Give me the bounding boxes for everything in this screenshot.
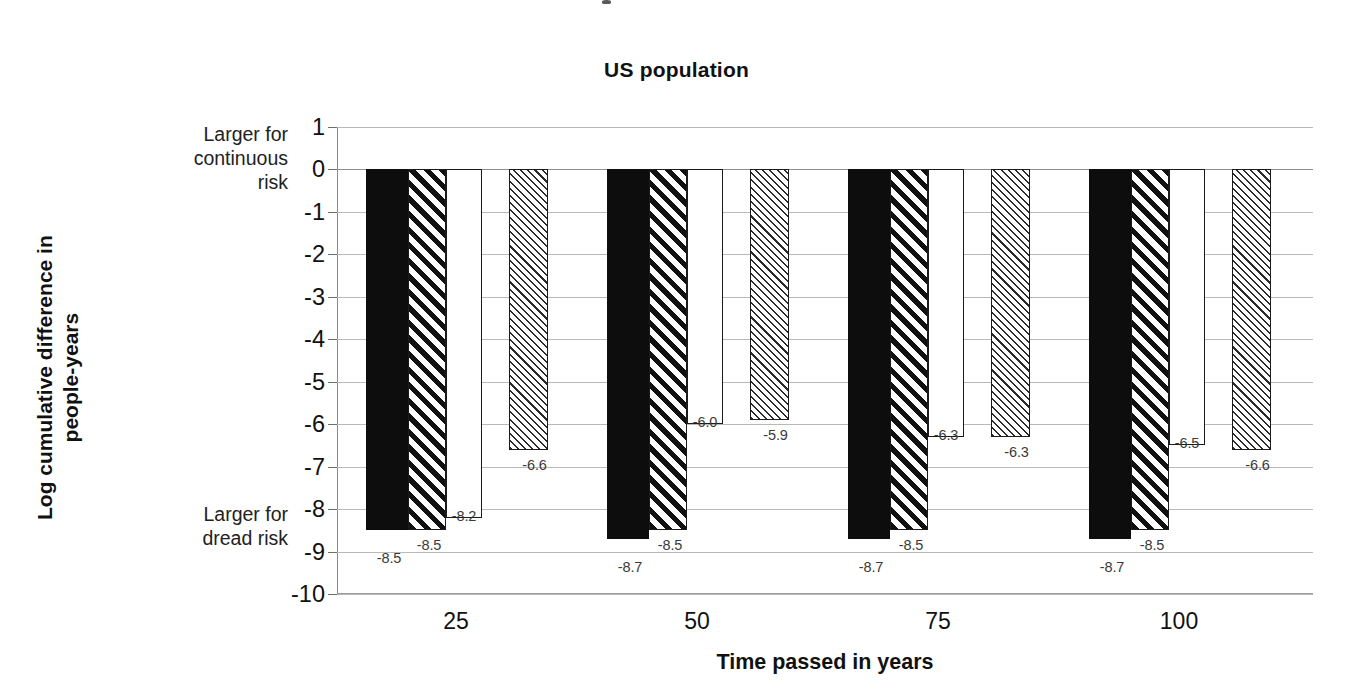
x-tick-label-75: 75: [925, 608, 951, 635]
x-tick-label-50: 50: [684, 608, 710, 635]
data-label-25-series-1-solid-black: -8.5: [377, 550, 402, 566]
x-axis-title: Time passed in years: [337, 650, 1313, 675]
chart-figure: US population Log cumulative difference …: [0, 0, 1353, 697]
data-label-75-series-2-bold-diagonal-hatch: -8.5: [899, 537, 924, 553]
bar-75-series-4-fine-diagonal-hatch: [991, 169, 1030, 436]
plot-area: -8.5-8.5-8.2-6.6-8.7-8.5-6.0-5.9-8.7-8.5…: [337, 127, 1313, 594]
y-tick-label--4: -4: [243, 326, 325, 353]
y-axis-title-line-1: Log cumulative difference in: [32, 168, 58, 588]
bar-100-series-2-bold-diagonal-hatch: [1131, 169, 1169, 530]
bar-25-series-2-bold-diagonal-hatch: [408, 169, 446, 530]
y-tick--5: [328, 382, 337, 383]
y-tick--1: [328, 212, 337, 213]
y-tick-label--3: -3: [243, 283, 325, 310]
bar-25-series-3-plain-white: [446, 169, 482, 517]
y-tick-label--9: -9: [243, 538, 325, 565]
y-tick--9: [328, 552, 337, 553]
y-tick--6: [328, 424, 337, 425]
data-label-75-series-3-plain-white: -6.3: [934, 427, 959, 443]
bar-25-series-1-solid-black: [366, 169, 408, 530]
y-tick-1: [328, 127, 337, 128]
y-tick--3: [328, 297, 337, 298]
gridline-1: [337, 127, 1313, 128]
gridline--9: [337, 552, 1313, 553]
bar-75-series-2-bold-diagonal-hatch: [890, 169, 928, 530]
y-tick--7: [328, 467, 337, 468]
y-tick-label--5: -5: [243, 368, 325, 395]
data-label-25-series-4-fine-diagonal-hatch: -6.6: [522, 457, 547, 473]
x-tick-label-25: 25: [443, 608, 469, 635]
y-tick-label-1: 1: [243, 114, 325, 141]
data-label-50-series-3-plain-white: -6.0: [693, 414, 718, 430]
data-label-100-series-3-plain-white: -6.5: [1175, 435, 1200, 451]
y-tick--8: [328, 509, 337, 510]
scan-artifact-speck: [602, 0, 611, 4]
chart-title: US population: [0, 58, 1353, 82]
data-label-100-series-1-solid-black: -8.7: [1100, 559, 1125, 575]
bar-100-series-3-plain-white: [1169, 169, 1205, 445]
data-label-100-series-4-fine-diagonal-hatch: -6.6: [1245, 457, 1270, 473]
bar-100-series-1-solid-black: [1089, 169, 1131, 538]
bar-50-series-4-fine-diagonal-hatch: [750, 169, 789, 419]
bar-75-series-1-solid-black: [848, 169, 890, 538]
y-tick--2: [328, 254, 337, 255]
data-label-100-series-2-bold-diagonal-hatch: -8.5: [1140, 537, 1165, 553]
data-label-25-series-2-bold-diagonal-hatch: -8.5: [417, 537, 442, 553]
y-tick-0: [328, 169, 337, 170]
y-tick-label-0: 0: [243, 156, 325, 183]
data-label-50-series-4-fine-diagonal-hatch: -5.9: [763, 427, 788, 443]
bar-50-series-3-plain-white: [687, 169, 723, 424]
y-tick-label--7: -7: [243, 453, 325, 480]
bar-100-series-4-fine-diagonal-hatch: [1232, 169, 1271, 449]
y-axis-title-line-2: people-years: [58, 168, 84, 588]
data-label-75-series-4-fine-diagonal-hatch: -6.3: [1004, 444, 1029, 460]
data-label-25-series-3-plain-white: -8.2: [452, 508, 477, 524]
y-tick-label--1: -1: [243, 198, 325, 225]
bar-50-series-2-bold-diagonal-hatch: [649, 169, 687, 530]
data-label-50-series-2-bold-diagonal-hatch: -8.5: [658, 537, 683, 553]
bar-75-series-3-plain-white: [928, 169, 964, 436]
y-tick-label--10: -10: [243, 581, 325, 608]
data-label-75-series-1-solid-black: -8.7: [859, 559, 884, 575]
y-tick-label--6: -6: [243, 411, 325, 438]
gridline--10: [337, 594, 1313, 595]
data-label-50-series-1-solid-black: -8.7: [618, 559, 643, 575]
y-tick--4: [328, 339, 337, 340]
y-tick-label--8: -8: [243, 496, 325, 523]
y-axis-title: Log cumulative difference in people-year…: [32, 168, 83, 588]
x-tick-label-100: 100: [1160, 608, 1198, 635]
y-tick--10: [328, 594, 337, 595]
bar-50-series-1-solid-black: [607, 169, 649, 538]
y-axis-tick-labels: 10-1-2-3-4-5-6-7-8-9-10: [243, 127, 325, 594]
bar-25-series-4-fine-diagonal-hatch: [509, 169, 548, 449]
y-tick-label--2: -2: [243, 241, 325, 268]
